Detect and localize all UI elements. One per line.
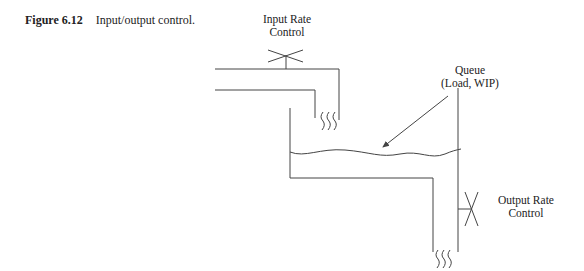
flow-diagram [0,0,584,271]
input-pipe [215,69,339,120]
queue-arrow-icon [383,96,448,147]
input-valve-icon [268,50,303,69]
output-valve-icon [458,192,478,226]
input-flow-drips-icon [321,112,336,130]
queue-water-surface [290,149,461,156]
output-flow-drips-icon [436,250,451,268]
